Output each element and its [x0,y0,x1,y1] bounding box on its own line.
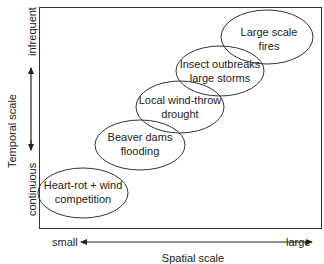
ellipse-large-scale-fires: Large scale fires [221,10,313,64]
ellipse-label: flooding [121,145,160,157]
ellipse-label: Insect outbreaks [180,58,261,70]
x-axis-title: Spatial scale [162,252,224,264]
x-left-label: small [52,236,78,248]
y-axis-title: Temporal scale [6,94,18,168]
ellipse-local-wind-throw: Local wind-throw drought [136,81,224,133]
ellipse-label: Large scale [241,26,298,38]
y-bottom-label: continuous [26,162,38,216]
ellipse-label: Local wind-throw [139,94,222,106]
ellipse-label: competition [55,193,111,205]
y-top-label: infrequent [26,7,38,56]
ellipse-beaver-dams: Beaver dams flooding [95,120,185,170]
ellipse-insect-outbreaks: Insect outbreaks large storms [176,46,264,96]
ellipse-label: fires [259,40,280,52]
ellipse-heart-rot: Heart-rot + wind competition [38,168,128,218]
ellipse-label: Heart-rot + wind [44,179,123,191]
scale-diagram: Heart-rot + wind competition Beaver dams… [0,0,324,264]
ellipse-label: Beaver dams [108,131,173,143]
ellipse-label: large storms [190,72,251,84]
x-right-label: large [286,236,310,248]
ellipse-label: drought [161,108,198,120]
